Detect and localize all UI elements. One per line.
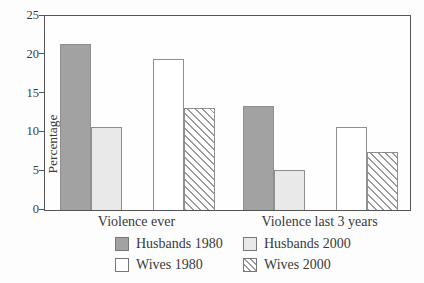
legend-label: Wives 1980	[136, 257, 203, 273]
legend-swatch-husbands-2000	[243, 237, 257, 251]
bar-wives-2000-group1	[184, 108, 215, 210]
y-tick-label-15: 15	[13, 86, 39, 100]
legend-item-wives-2000: Wives 2000	[243, 257, 351, 273]
bar-husbands-2000-group1	[91, 127, 122, 210]
y-tick-mark	[39, 15, 44, 16]
legend-swatch-husbands-1980	[115, 237, 129, 251]
legend-label: Husbands 2000	[264, 236, 351, 252]
bar-husbands-1980-group1	[60, 44, 91, 210]
legend-item-husbands-1980: Husbands 1980	[115, 236, 243, 252]
y-tick-mark	[39, 131, 44, 132]
bar-husbands-2000-group2	[274, 170, 305, 210]
y-tick-mark	[39, 53, 44, 54]
legend-item-husbands-2000: Husbands 2000	[243, 236, 351, 252]
category-label-2: Violence last 3 years	[242, 214, 397, 230]
y-tick-label-25: 25	[13, 8, 39, 22]
y-tick-mark	[39, 92, 44, 93]
bar-wives-1980-group1	[153, 59, 184, 210]
bar-husbands-1980-group2	[243, 106, 274, 210]
y-axis-title: Percentage	[45, 94, 61, 194]
bar-chart-figure: Percentage 0510152025Violence everViolen…	[0, 0, 424, 283]
bar-wives-2000-group2	[367, 152, 398, 210]
legend-swatch-wives-2000	[243, 258, 257, 272]
y-tick-label-10: 10	[13, 124, 39, 138]
legend-label: Wives 2000	[264, 257, 331, 273]
y-tick-mark	[39, 170, 44, 171]
legend-item-wives-1980: Wives 1980	[115, 257, 243, 273]
plot-area: Percentage	[44, 15, 411, 211]
legend-label: Husbands 1980	[136, 236, 223, 252]
category-label-1: Violence ever	[59, 214, 214, 230]
legend-swatch-wives-1980	[115, 258, 129, 272]
y-tick-label-0: 0	[13, 202, 39, 216]
legend: Husbands 1980Husbands 2000Wives 1980Wive…	[115, 236, 351, 273]
y-tick-mark	[39, 209, 44, 210]
y-tick-label-20: 20	[13, 47, 39, 61]
bar-wives-1980-group2	[336, 127, 367, 210]
y-tick-label-5: 5	[13, 163, 39, 177]
